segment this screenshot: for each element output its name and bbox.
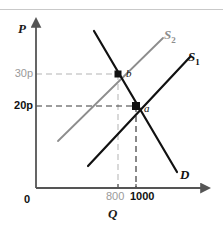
x-tick-label-1000: 1000 <box>130 191 154 202</box>
curve-label-supply-2: S2 <box>164 28 176 45</box>
point-marker-b <box>115 71 122 78</box>
x-tick-label-800: 800 <box>106 191 124 202</box>
curve-supply-2 <box>58 38 163 141</box>
curve-label-supply-1: S1 <box>188 50 200 67</box>
curve-label-demand: D <box>180 168 189 181</box>
curve-supply-1 <box>88 57 190 166</box>
origin-label: 0 <box>24 194 30 205</box>
point-marker-a <box>132 102 140 110</box>
point-label-b: b <box>126 68 132 79</box>
curve-label-supply-2-subscript: 2 <box>171 35 176 45</box>
x-axis-label: Q <box>108 207 117 220</box>
y-axis-label: P <box>18 22 26 35</box>
supply-demand-figure: P Q 0 30p 20p 800 1000 S2 S1 D b a <box>0 0 223 225</box>
y-tick-label-20p: 20p <box>2 100 33 111</box>
curve-label-demand-text: D <box>180 167 189 182</box>
y-tick-label-30p: 30p <box>2 68 33 79</box>
point-label-a: a <box>144 103 150 114</box>
curve-label-supply-1-subscript: 1 <box>195 57 200 67</box>
